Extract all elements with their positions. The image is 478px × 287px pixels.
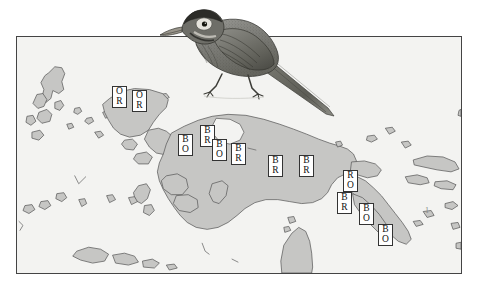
bird-bill <box>160 27 182 35</box>
label-bo-4: B O <box>378 224 393 246</box>
label-ro-1-line2: O <box>344 181 357 191</box>
label-bo-3-line2: O <box>360 214 373 224</box>
label-bo-2-line2: O <box>213 150 226 160</box>
label-bo-1: B O <box>178 134 193 156</box>
label-or-2-line2: R <box>133 101 146 111</box>
label-bo-2: B O <box>212 139 227 161</box>
bird-eye-ring <box>196 18 212 30</box>
label-or-2: O R <box>132 90 147 112</box>
label-or-1-line2: R <box>113 97 126 107</box>
label-ro-1: R O <box>343 170 358 192</box>
bird-crown <box>184 10 222 24</box>
label-bo-4-line2: O <box>379 235 392 245</box>
label-br-2-line2: R <box>232 154 245 164</box>
label-br-2: B R <box>231 143 246 165</box>
figure-root: 1 O R O R B O B R B O B R B R B R R O B … <box>0 0 478 287</box>
label-br-3: B R <box>268 155 283 177</box>
label-or-1: O R <box>112 86 127 108</box>
label-br-5: B R <box>337 192 352 214</box>
bird-eye <box>202 21 207 26</box>
label-br-5-line2: R <box>338 203 351 213</box>
island-number-label: 1 <box>425 206 429 215</box>
label-bo-1-line2: O <box>179 145 192 155</box>
label-br-4: B R <box>299 155 314 177</box>
label-br-4-line2: R <box>300 166 313 176</box>
label-br-3-line2: R <box>269 166 282 176</box>
label-bo-3: B O <box>359 203 374 225</box>
